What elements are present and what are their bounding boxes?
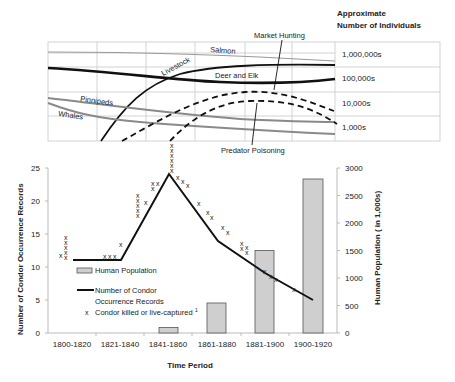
svg-text:x: x bbox=[181, 178, 185, 185]
legend-line-label-1: Number of Condor bbox=[95, 286, 157, 295]
svg-text:x: x bbox=[210, 214, 214, 221]
svg-text:x: x bbox=[221, 224, 225, 231]
svg-text:x: x bbox=[108, 253, 112, 260]
left-ticks bbox=[45, 168, 48, 333]
legend-marker-footnote: 1 bbox=[195, 307, 198, 313]
left-axis-label: Number of Condor Occurrence Records bbox=[16, 183, 25, 335]
svg-text:3000: 3000 bbox=[345, 164, 363, 173]
svg-text:25: 25 bbox=[31, 164, 40, 173]
x-ticks bbox=[96, 333, 289, 336]
svg-text:x: x bbox=[136, 212, 140, 219]
svg-text:20: 20 bbox=[31, 197, 40, 206]
svg-text:x: x bbox=[240, 245, 244, 252]
predator-poisoning-arrow bbox=[252, 103, 257, 145]
svg-text:2000: 2000 bbox=[345, 219, 363, 228]
level-1000s: 1,000s bbox=[342, 123, 366, 132]
bar-1841-1860 bbox=[159, 328, 178, 334]
market-hunting-annotation: Market Hunting bbox=[254, 31, 305, 40]
svg-text:2500: 2500 bbox=[345, 192, 363, 201]
svg-text:15: 15 bbox=[31, 230, 40, 239]
predator-poisoning-annotation: Predator Poisoning bbox=[221, 146, 285, 155]
bar-1861-1880 bbox=[207, 303, 226, 333]
svg-text:x: x bbox=[64, 254, 68, 261]
svg-text:x: x bbox=[113, 253, 117, 260]
svg-text:0: 0 bbox=[345, 329, 350, 338]
x-axis-label: Time Period bbox=[167, 361, 213, 370]
right-axis-label: Human Population ( in 1,000s) bbox=[373, 190, 382, 305]
svg-text:x: x bbox=[226, 229, 230, 236]
svg-text:x: x bbox=[156, 180, 160, 187]
svg-text:x: x bbox=[170, 167, 174, 174]
top-panel: Approximate Number of Individuals 1,000,… bbox=[48, 9, 440, 155]
bar-1881-1900 bbox=[255, 251, 274, 334]
legend-marker-label: Condor killed or live-captured bbox=[95, 308, 193, 317]
svg-text:x: x bbox=[263, 268, 267, 275]
whales-label: Whales bbox=[58, 109, 84, 121]
svg-text:1841-1860: 1841-1860 bbox=[149, 340, 188, 349]
legend: Human Population Number of Condor Occurr… bbox=[77, 266, 198, 317]
right-tick-labels: 0 500 1000 1500 2000 2500 3000 bbox=[345, 164, 363, 338]
svg-text:1881-1900: 1881-1900 bbox=[246, 340, 285, 349]
svg-text:x: x bbox=[103, 253, 107, 260]
svg-text:0: 0 bbox=[36, 329, 41, 338]
svg-text:x: x bbox=[176, 174, 180, 181]
right-ticks bbox=[337, 168, 340, 333]
svg-text:1800-1820: 1800-1820 bbox=[53, 340, 92, 349]
top-title-line1: Approximate bbox=[337, 9, 386, 18]
svg-text:10: 10 bbox=[31, 263, 40, 272]
svg-text:x: x bbox=[269, 273, 273, 280]
legend-bar-label: Human Population bbox=[95, 266, 157, 275]
livestock-label: Livestock bbox=[160, 55, 192, 78]
condor-figure: Approximate Number of Individuals 1,000,… bbox=[0, 0, 455, 382]
svg-text:1900-1920: 1900-1920 bbox=[294, 340, 333, 349]
svg-text:x: x bbox=[274, 276, 278, 283]
legend-bar-swatch bbox=[77, 268, 92, 273]
legend-line-label-2: Occurrence Records bbox=[95, 297, 164, 306]
level-10000s: 10,000s bbox=[342, 99, 370, 108]
svg-text:x: x bbox=[197, 200, 201, 207]
deer-elk-label: Deer and Elk bbox=[215, 71, 259, 80]
svg-text:x: x bbox=[144, 199, 148, 206]
svg-text:x: x bbox=[59, 252, 63, 259]
svg-text:1500: 1500 bbox=[345, 247, 363, 256]
svg-text:x: x bbox=[119, 241, 123, 248]
x-tick-labels: 1800-1820 1821-1840 1841-1860 1861-1880 … bbox=[53, 340, 333, 349]
svg-text:x: x bbox=[292, 286, 296, 293]
svg-text:1861-1880: 1861-1880 bbox=[198, 340, 237, 349]
svg-text:5: 5 bbox=[36, 296, 41, 305]
bar-1900-1920 bbox=[303, 179, 323, 333]
svg-text:x: x bbox=[186, 182, 190, 189]
bottom-panel: 0 5 10 15 20 25 Number of Condor Occurre… bbox=[16, 142, 382, 370]
level-1000000s: 1,000,000s bbox=[342, 50, 382, 59]
left-tick-labels: 0 5 10 15 20 25 bbox=[31, 164, 40, 338]
svg-text:x: x bbox=[245, 249, 249, 256]
svg-text:x: x bbox=[151, 185, 155, 192]
salmon-label: Salmon bbox=[210, 45, 236, 56]
legend-marker-icon: x bbox=[85, 309, 89, 316]
level-100000s: 100,000s bbox=[342, 74, 375, 83]
svg-text:500: 500 bbox=[345, 302, 359, 311]
svg-text:1000: 1000 bbox=[345, 274, 363, 283]
top-title-line2: Number of Individuals bbox=[337, 21, 422, 30]
svg-text:1821-1840: 1821-1840 bbox=[101, 340, 140, 349]
